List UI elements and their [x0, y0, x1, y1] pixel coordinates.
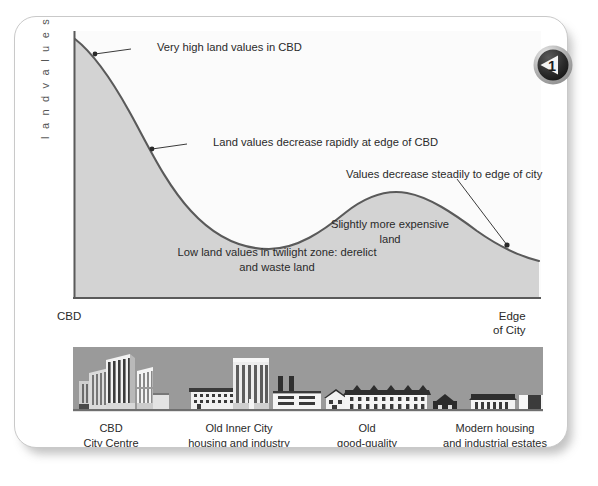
diagram-page: l a n d v a l u e s	[0, 0, 598, 486]
annotation-very-high-values: Very high land values in CBD	[157, 40, 302, 55]
caption-modern-housing: Modern housing and industrial estates	[431, 421, 559, 448]
y-axis-label: l a n d v a l u e s	[39, 43, 51, 139]
page-number-badge[interactable]: 1	[531, 43, 575, 87]
caption-old-good-quality-housing: Old good-quality housing	[303, 421, 431, 448]
annotation-decrease-steadily: Values decrease steadily to edge of city	[346, 167, 542, 182]
content-card: l a n d v a l u e s	[14, 16, 568, 448]
zone-modern-housing-buildings	[469, 394, 543, 409]
x-axis-label-cbd: CBD	[57, 309, 81, 323]
annotation-low-land-values: Low land values in twilight zone: dereli…	[177, 245, 377, 275]
badge-number: 1	[548, 58, 556, 74]
annotation-decrease-rapidly: Land values decrease rapidly at edge of …	[213, 135, 438, 150]
caption-old-inner-city: Old Inner City housing and industry with…	[175, 421, 303, 448]
ground-line	[73, 409, 543, 411]
x-axis-label-edge-of-city: Edge of City	[493, 309, 526, 338]
zone-captions: CBD City Centre Old Inner City housing a…	[47, 421, 559, 448]
cityscape-illustration	[73, 347, 543, 415]
caption-cbd: CBD City Centre	[47, 421, 175, 448]
annotation-slightly-more-expensive: Slightly more expensive land	[330, 217, 450, 247]
land-value-chart: l a n d v a l u e s	[41, 27, 543, 327]
